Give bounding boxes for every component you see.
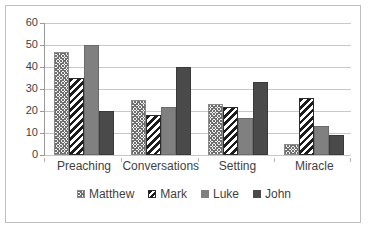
bar-luke-miracle[interactable] (314, 126, 329, 155)
y-tick-mark (40, 155, 44, 156)
x-tick-mark (350, 158, 351, 162)
bar-mark-conversations[interactable] (146, 115, 161, 155)
bar-john-miracle[interactable] (329, 135, 344, 155)
bar-matthew-setting[interactable] (208, 104, 223, 155)
x-axis-label-miracle: Miracle (259, 158, 368, 174)
chart-legend: MatthewMarkLukeJohn (6, 188, 362, 200)
bar-john-setting[interactable] (253, 82, 268, 155)
legend-label: Luke (213, 188, 239, 200)
bar-john-preaching[interactable] (99, 111, 114, 155)
plot-area (44, 23, 351, 155)
bar-matthew-preaching[interactable] (54, 52, 69, 155)
bar-luke-preaching[interactable] (84, 45, 99, 155)
legend-swatch-matthew-icon (77, 190, 85, 198)
bar-mark-preaching[interactable] (69, 78, 84, 155)
bar-luke-setting[interactable] (238, 118, 253, 155)
y-axis-tick-label: 50 (12, 39, 38, 50)
bar-matthew-miracle[interactable] (284, 144, 299, 155)
bar-group (208, 23, 268, 155)
bar-group (284, 23, 344, 155)
chart-container: 0102030405060 PreachingConversationsSett… (5, 5, 361, 223)
y-axis-tick-label: 10 (12, 127, 38, 138)
legend-item-matthew[interactable]: Matthew (77, 188, 134, 200)
legend-label: John (265, 188, 291, 200)
legend-swatch-john-icon (253, 190, 261, 198)
bar-group (54, 23, 114, 155)
legend-label: Mark (160, 188, 187, 200)
y-axis-tick-label: 60 (12, 17, 38, 28)
bar-matthew-conversations[interactable] (131, 100, 146, 155)
y-axis-tick-label: 40 (12, 61, 38, 72)
legend-item-mark[interactable]: Mark (148, 188, 187, 200)
y-axis-tick-label: 30 (12, 83, 38, 94)
gridline (44, 155, 351, 156)
legend-swatch-luke-icon (201, 190, 209, 198)
bar-mark-setting[interactable] (223, 107, 238, 155)
bar-john-conversations[interactable] (176, 67, 191, 155)
legend-swatch-mark-icon (148, 190, 156, 198)
legend-item-luke[interactable]: Luke (201, 188, 239, 200)
legend-item-john[interactable]: John (253, 188, 291, 200)
legend-label: Matthew (89, 188, 134, 200)
bar-group (131, 23, 191, 155)
x-axis-labels: PreachingConversationsSettingMiracle (44, 158, 351, 178)
bar-mark-miracle[interactable] (299, 98, 314, 155)
y-axis-tick-label: 20 (12, 105, 38, 116)
bar-luke-conversations[interactable] (161, 107, 176, 155)
